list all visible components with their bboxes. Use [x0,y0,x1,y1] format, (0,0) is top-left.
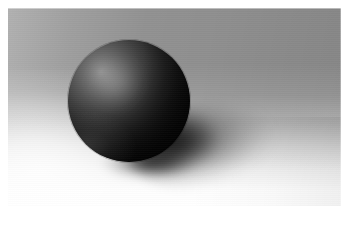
screenshot-root: Rendered grey sphere resting on a ground… [0,0,349,229]
sphere [68,40,190,162]
rendered-image: Rendered grey sphere resting on a ground… [8,8,341,206]
frame-top-highlight [8,8,341,9]
frame-right-highlight [340,8,341,206]
sphere-specular-highlight [85,56,148,115]
